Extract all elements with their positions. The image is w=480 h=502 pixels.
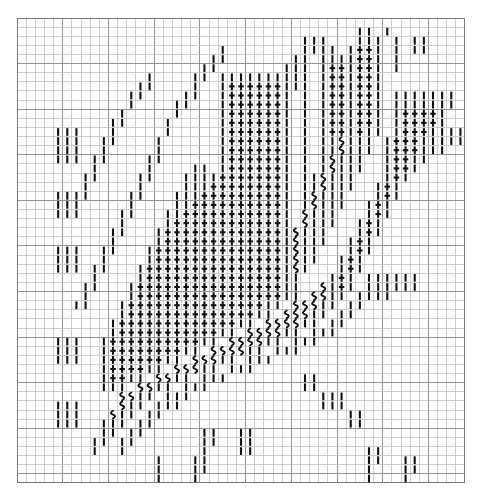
grid-lines-layer <box>17 18 465 483</box>
stitch-chart-root <box>0 0 480 502</box>
graph-paper-grid <box>17 18 465 483</box>
